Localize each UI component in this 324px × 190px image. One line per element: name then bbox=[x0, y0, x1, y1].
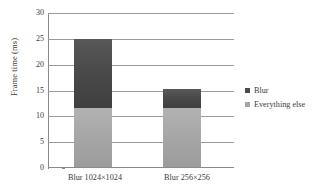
y-tick-label-15: 15 bbox=[22, 87, 44, 95]
y-tick-label-20: 20 bbox=[22, 61, 44, 69]
bar-segment-blur[interactable] bbox=[163, 89, 201, 108]
y-tick-mark-0 bbox=[62, 168, 65, 169]
y-tick-label-10: 10 bbox=[22, 112, 44, 120]
legend-item-everything-else[interactable]: Everything else bbox=[245, 97, 323, 111]
bar-segment-everything-else[interactable] bbox=[163, 108, 201, 167]
bar-blur-1024x1024[interactable] bbox=[74, 13, 112, 168]
stacked-bar-chart: Frame time (ms) 30 25 20 15 10 5 0 bbox=[0, 0, 324, 190]
y-tick-label-5: 5 bbox=[22, 138, 44, 146]
legend-label-everything-else: Everything else bbox=[254, 100, 305, 109]
legend: Blur Everything else bbox=[245, 83, 323, 111]
legend-swatch-blur-icon bbox=[245, 88, 250, 93]
bar-blur-256x256[interactable] bbox=[163, 13, 201, 168]
bar-segment-blur[interactable] bbox=[74, 39, 112, 108]
legend-item-blur[interactable]: Blur bbox=[245, 83, 323, 97]
legend-label-blur: Blur bbox=[254, 86, 269, 95]
legend-swatch-everything-else-icon bbox=[245, 102, 250, 107]
y-tick-label-25: 25 bbox=[22, 35, 44, 43]
y-tick-label-0: 0 bbox=[22, 164, 44, 172]
y-axis-tick-labels: 30 25 20 15 10 5 0 bbox=[18, 13, 44, 168]
x-tick-label-blur-1024x1024: Blur 1024×1024 bbox=[48, 173, 142, 182]
y-tick-label-30: 30 bbox=[22, 9, 44, 17]
plot-area bbox=[48, 13, 234, 168]
x-tick-label-blur-256x256: Blur 256×256 bbox=[140, 173, 234, 182]
bar-segment-everything-else[interactable] bbox=[74, 108, 112, 167]
